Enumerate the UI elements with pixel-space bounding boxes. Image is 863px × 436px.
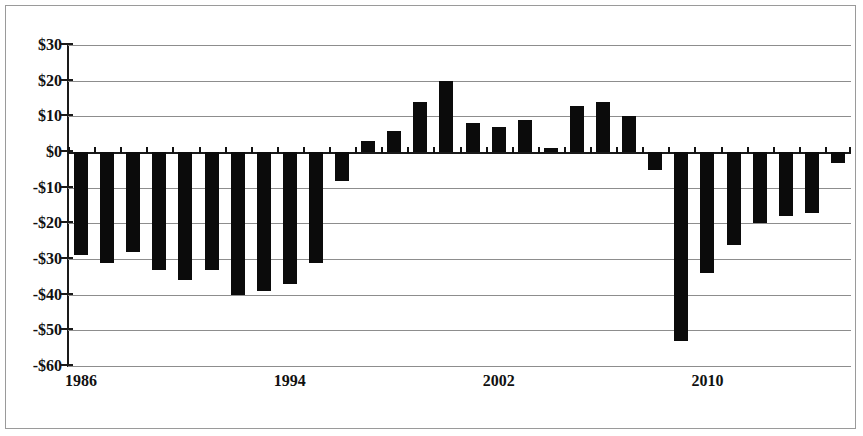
x-tick-mark <box>251 147 253 153</box>
x-tick-mark <box>825 147 827 153</box>
gridline-20 <box>68 81 851 82</box>
x-tick-mark <box>773 147 775 153</box>
x-tick-mark <box>303 147 305 153</box>
bar <box>727 152 741 245</box>
bar <box>205 152 219 270</box>
bar <box>753 152 767 223</box>
bar <box>674 152 688 341</box>
bar <box>309 152 323 263</box>
x-tick-mark <box>407 147 409 153</box>
x-tick-mark <box>721 147 723 153</box>
y-axis-tick-label: -$60 <box>33 357 62 375</box>
y-axis-tick-label: $10 <box>38 107 62 125</box>
x-axis-tick-label: 1986 <box>65 372 97 390</box>
bar <box>152 152 166 270</box>
bar <box>283 152 297 284</box>
y-axis-tick-label: -$40 <box>33 286 62 304</box>
bar <box>100 152 114 263</box>
x-tick-mark <box>381 147 383 153</box>
x-tick-mark <box>225 147 227 153</box>
x-tick-mark <box>68 147 70 153</box>
x-tick-mark <box>277 147 279 153</box>
x-tick-mark <box>120 147 122 153</box>
x-axis-ticks <box>68 147 851 154</box>
bar <box>257 152 271 291</box>
x-tick-mark <box>849 147 851 153</box>
bar <box>126 152 140 252</box>
chart-frame: $30$20$10$0-$10-$20-$30-$40-$50-$60 1986… <box>5 5 856 429</box>
bar <box>439 81 453 152</box>
x-tick-mark <box>433 147 435 153</box>
bar <box>596 102 610 152</box>
x-tick-mark <box>564 147 566 153</box>
x-axis-tick-label: 2010 <box>691 372 723 390</box>
x-tick-mark <box>694 147 696 153</box>
x-tick-mark <box>799 147 801 153</box>
x-tick-mark <box>642 147 644 153</box>
bar <box>570 106 584 152</box>
x-tick-mark <box>616 147 618 153</box>
y-axis-tick-label: -$10 <box>33 179 62 197</box>
x-tick-mark <box>460 147 462 153</box>
y-axis-tick-label: -$30 <box>33 250 62 268</box>
bar <box>413 102 427 152</box>
x-axis-tick-label: 1994 <box>274 372 306 390</box>
y-axis-tick-label: -$50 <box>33 321 62 339</box>
x-tick-mark <box>486 147 488 153</box>
bar <box>335 152 349 181</box>
x-tick-mark <box>146 147 148 153</box>
x-axis-tick-label: 2002 <box>483 372 515 390</box>
x-tick-mark <box>538 147 540 153</box>
x-tick-mark <box>512 147 514 153</box>
gridline--40 <box>68 295 851 296</box>
x-tick-mark <box>355 147 357 153</box>
gridline-30 <box>68 45 851 46</box>
y-axis-labels: $30$20$10$0-$10-$20-$30-$40-$50-$60 <box>6 6 62 436</box>
y-axis-tick-label: $0 <box>46 143 62 161</box>
y-axis-tick-label: -$20 <box>33 214 62 232</box>
y-axis-tick-label: $30 <box>38 36 62 54</box>
x-tick-mark <box>172 147 174 153</box>
bar <box>779 152 793 216</box>
bar <box>805 152 819 213</box>
x-tick-mark <box>747 147 749 153</box>
x-tick-mark <box>668 147 670 153</box>
x-tick-mark <box>329 147 331 153</box>
bar <box>178 152 192 280</box>
x-tick-mark <box>94 147 96 153</box>
gridline--60 <box>68 366 851 367</box>
plot-area <box>68 45 851 366</box>
bar <box>700 152 714 273</box>
bar <box>648 152 662 170</box>
gridline--50 <box>68 330 851 331</box>
bar <box>74 152 88 255</box>
gridline-10 <box>68 116 851 117</box>
x-tick-mark <box>199 147 201 153</box>
y-axis-tick-label: $20 <box>38 72 62 90</box>
bar <box>231 152 245 295</box>
x-tick-mark <box>590 147 592 153</box>
